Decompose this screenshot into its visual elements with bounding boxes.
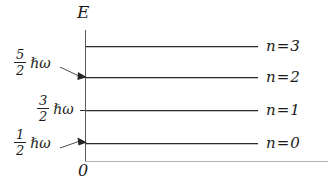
- level-label-n3-symbol: n: [266, 37, 276, 55]
- level-label-n1-equals: =: [276, 101, 291, 119]
- level-label-n3: n=3: [266, 39, 300, 54]
- energy-annotation-n1: 3 2 ℏω: [37, 94, 74, 124]
- level-label-n0-equals: =: [276, 134, 291, 152]
- level-label-n2: n=2: [266, 70, 300, 85]
- leader-connector-n1: [80, 110, 85, 111]
- energy-level-diagram: E 0 n=3 n=2 n=1 n=0 5 2 ℏω 3 2 ℏω 1: [0, 0, 335, 189]
- leader-arrow-n0: [60, 129, 90, 151]
- level-label-n0: n=0: [266, 136, 300, 151]
- level-line-n1: [86, 110, 258, 111]
- level-label-n3-value: 3: [290, 37, 300, 55]
- fraction-denominator: 2: [37, 110, 49, 123]
- fraction-one-half: 1 2: [14, 128, 26, 158]
- level-label-n2-symbol: n: [266, 68, 276, 86]
- axis-label-energy: E: [77, 4, 89, 21]
- hbar-omega-unit: ℏω: [53, 102, 73, 116]
- hbar-omega-unit: ℏω: [30, 136, 50, 150]
- fraction-numerator: 5: [14, 48, 26, 61]
- level-line-n3: [86, 46, 258, 47]
- fraction-denominator: 2: [14, 64, 26, 77]
- fraction-numerator: 1: [14, 128, 26, 141]
- energy-annotation-n2: 5 2 ℏω: [14, 48, 51, 78]
- level-label-n1-symbol: n: [266, 101, 276, 119]
- level-label-n0-symbol: n: [266, 134, 276, 152]
- axis-label-origin: 0: [78, 163, 88, 179]
- hbar-omega-unit: ℏω: [30, 56, 50, 70]
- level-label-n3-equals: =: [276, 37, 291, 55]
- leader-arrow-n2: [60, 62, 90, 84]
- level-line-n2: [86, 77, 258, 78]
- fraction-five-halves: 5 2: [14, 48, 26, 78]
- horizontal-axis: [85, 161, 328, 162]
- level-label-n1-value: 1: [290, 101, 300, 119]
- level-line-n0: [86, 143, 258, 144]
- level-label-n0-value: 0: [290, 134, 300, 152]
- level-label-n2-equals: =: [276, 68, 291, 86]
- energy-annotation-n0: 1 2 ℏω: [14, 128, 51, 158]
- level-label-n1: n=1: [266, 103, 300, 118]
- fraction-three-halves: 3 2: [37, 94, 49, 124]
- level-label-n2-value: 2: [290, 68, 300, 86]
- fraction-numerator: 3: [37, 94, 49, 107]
- fraction-denominator: 2: [14, 144, 26, 157]
